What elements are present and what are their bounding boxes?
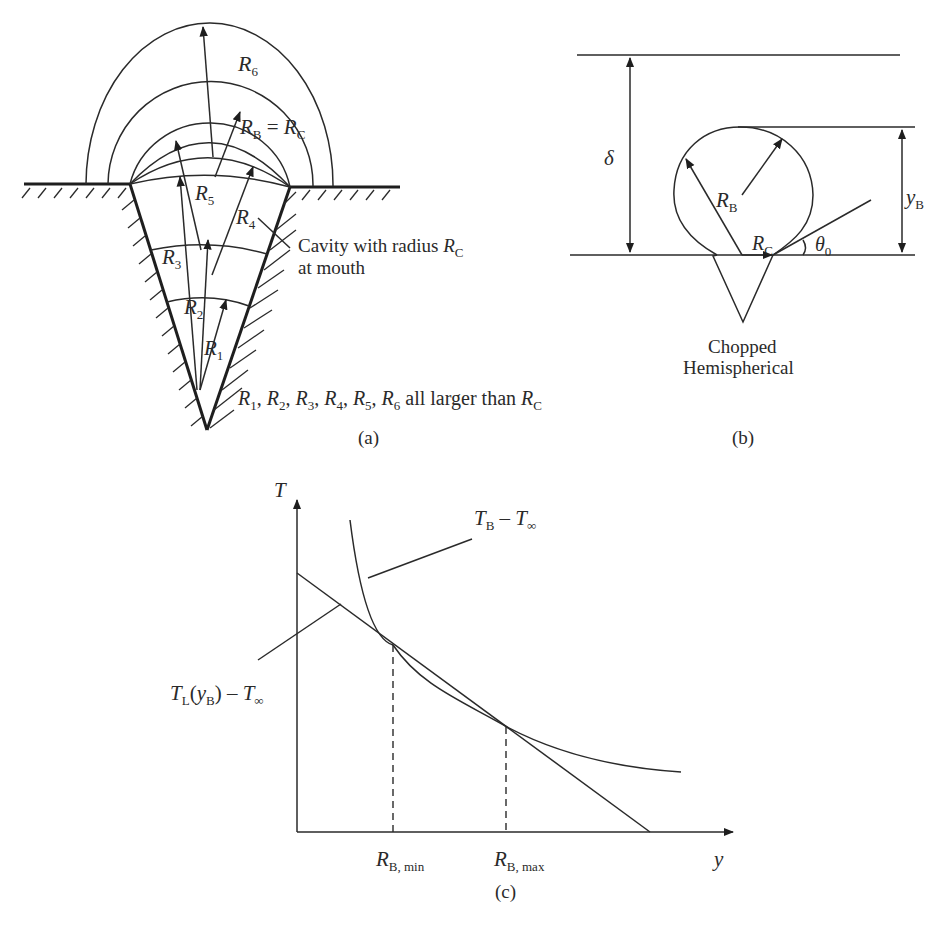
label-rb-equals-rc: RB = RC: [240, 117, 305, 138]
y-axis-label: T: [274, 480, 286, 501]
radii-note: R1, R2, R3, R4, R5, R6 all larger than R…: [238, 388, 542, 408]
cavity-note-line2: at mouth: [298, 258, 365, 277]
label-r5: R5: [195, 183, 214, 204]
label-r4: R4: [236, 207, 255, 228]
caption-b: (b): [732, 428, 754, 447]
panel-b-bubble-diagram: [570, 55, 915, 322]
label-r1: R1: [204, 338, 223, 359]
tick-rb-max: RB, max: [494, 849, 544, 870]
label-rb: RB: [716, 190, 738, 211]
cavity-note-line1: Cavity with radius RC: [298, 236, 463, 255]
panel-a-cavity-diagram: [22, 23, 400, 430]
tick-rb-min: RB, min: [376, 849, 424, 870]
caption-c: (c): [495, 882, 516, 901]
panel-c-temperature-chart: [258, 500, 733, 832]
label-r6: R6: [238, 53, 258, 75]
caption-a: (a): [358, 428, 379, 447]
label-r3: R3: [162, 247, 181, 268]
figure-canvas: [0, 0, 946, 926]
label-yb: yB: [906, 187, 924, 208]
hemispherical-label: Hemispherical: [683, 358, 794, 377]
line-label-tl: TL(yB) – T∞: [170, 683, 264, 704]
x-axis-label: y: [714, 849, 723, 870]
label-delta: δ: [604, 148, 614, 169]
label-theta0: θ0: [815, 234, 831, 254]
chopped-label: Chopped: [708, 337, 777, 356]
label-r2: R2: [184, 297, 203, 318]
curve-label-tb: TB – T∞: [474, 508, 536, 529]
label-rc: RC: [752, 233, 773, 253]
